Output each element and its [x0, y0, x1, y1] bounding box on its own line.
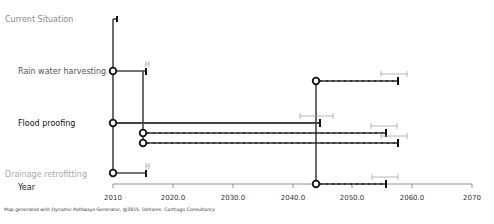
label-rain-water-harvesting: Rain water harvesting	[18, 67, 106, 76]
pathway-axis-row	[316, 174, 398, 188]
transfer-nodes	[110, 68, 320, 188]
svg-text:2040.0: 2040.0	[281, 194, 306, 202]
node-icon	[313, 181, 320, 188]
credit-footer: Map generated with Dynamic Pathways Gene…	[4, 207, 215, 212]
label-current-situation: Current Situation	[5, 15, 73, 24]
node-icon	[140, 130, 147, 137]
node-icon	[110, 120, 117, 127]
x-axis	[113, 184, 472, 188]
svg-text:2010: 2010	[104, 194, 122, 202]
label-flood-proofing: Flood proofing	[18, 119, 75, 128]
node-icon	[110, 68, 117, 75]
label-drainage-retrofitting: Drainage retrofitting	[5, 170, 87, 179]
svg-text:2050.0: 2050.0	[340, 194, 365, 202]
transfer-lines	[113, 19, 316, 184]
x-tick-labels: 2010 2020.0 2030.0 2040.0 2050.0 2060.0 …	[104, 194, 481, 202]
pathway-flood-proofing-solid	[113, 113, 333, 127]
pathway-rain-from-2044	[316, 71, 407, 85]
svg-text:2070: 2070	[463, 194, 481, 202]
pathways-chart: Current Situation Rain water harvesting …	[0, 0, 494, 224]
svg-text:2030.0: 2030.0	[221, 194, 246, 202]
pathway-flood-proofing-dashed-2	[143, 133, 407, 147]
node-icon	[140, 140, 147, 147]
node-icon	[110, 170, 117, 177]
label-year: Year	[17, 183, 36, 192]
svg-text:2060.0: 2060.0	[400, 194, 425, 202]
node-icon	[313, 78, 320, 85]
svg-text:2020.0: 2020.0	[161, 194, 186, 202]
pathway-flood-proofing-dashed-1	[143, 123, 397, 137]
pathway-drainage-retrofitting	[113, 163, 149, 177]
